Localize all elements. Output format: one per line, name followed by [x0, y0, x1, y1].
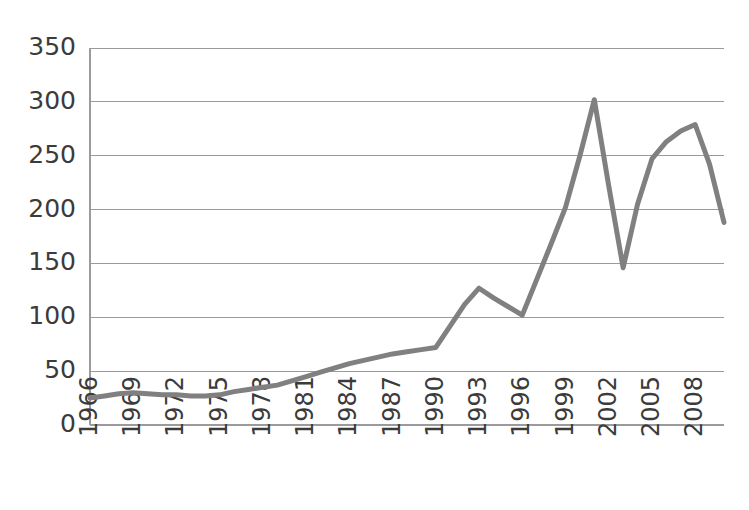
data-series	[90, 100, 724, 398]
y-tick-label: 350	[28, 32, 76, 61]
y-tick-label: 50	[44, 355, 76, 384]
x-tick-label: 1984	[334, 376, 362, 437]
x-tick-label: 1981	[291, 376, 319, 437]
x-tick-label: 1969	[118, 376, 146, 437]
x-tick-label: 2008	[680, 376, 708, 437]
y-tick-label: 150	[28, 247, 76, 276]
y-tick-label: 200	[28, 194, 76, 223]
x-tick-label: 1987	[378, 376, 406, 437]
y-tick-label: 300	[28, 86, 76, 115]
x-tick-label: 1996	[507, 376, 535, 437]
series-line	[90, 100, 724, 398]
x-tick-label: 1972	[161, 376, 189, 437]
x-tick-label: 1993	[464, 376, 492, 437]
gridlines	[90, 48, 724, 371]
x-tick-label: 2002	[594, 376, 622, 437]
x-tick-label: 1999	[551, 376, 579, 437]
line-chart: 050100150200250300350 196619691972197519…	[0, 0, 749, 510]
chart-canvas: 050100150200250300350 196619691972197519…	[0, 0, 749, 510]
y-tick-label: 0	[60, 409, 76, 438]
x-tick-label: 1975	[205, 376, 233, 437]
x-tick-label: 1966	[75, 376, 103, 437]
x-axis-tick-labels: 1966196919721975197819811984198719901993…	[75, 376, 708, 437]
y-tick-label: 100	[28, 301, 76, 330]
x-tick-label: 1990	[421, 376, 449, 437]
x-tick-label: 2005	[637, 376, 665, 437]
y-tick-label: 250	[28, 140, 76, 169]
y-axis-tick-labels: 050100150200250300350	[28, 32, 76, 438]
